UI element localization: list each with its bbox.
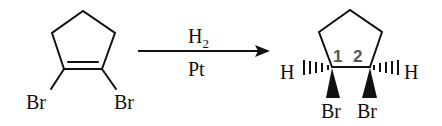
reactant-br-right-label: Br bbox=[114, 91, 134, 113]
product-h-right-label: H bbox=[404, 61, 418, 83]
reactant-br-bond-right bbox=[102, 69, 116, 89]
carbon-1-locant: 1 bbox=[333, 47, 342, 66]
hashed-wedge-right bbox=[374, 60, 398, 75]
product-ring bbox=[319, 10, 382, 67]
product-h-left-label: H bbox=[280, 61, 294, 83]
reactant-br-bond-left bbox=[51, 69, 64, 89]
product-br-left-label: Br bbox=[321, 100, 341, 122]
product-molecule bbox=[319, 10, 382, 67]
catalyst-below-arrow: Pt bbox=[188, 58, 205, 80]
hashed-wedge-left bbox=[304, 60, 328, 75]
product-br-right-label: Br bbox=[357, 100, 377, 122]
reactant-ring bbox=[52, 11, 115, 69]
solid-wedge-right bbox=[362, 68, 377, 98]
reactant-br-left-label: Br bbox=[26, 91, 46, 113]
reactant-molecule bbox=[51, 11, 116, 89]
reaction-scheme: Br Br H2 Pt bbox=[0, 0, 442, 126]
reagent-above-arrow: H2 bbox=[188, 25, 209, 51]
carbon-2-locant: 2 bbox=[353, 47, 362, 66]
solid-wedge-left bbox=[326, 68, 340, 98]
